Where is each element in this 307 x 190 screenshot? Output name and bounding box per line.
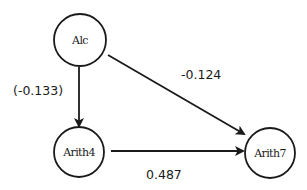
edge-alc-to-arith7 <box>108 55 244 134</box>
node-label-arith4: Arith4 <box>62 146 95 159</box>
node-arith4: Arith4 <box>54 127 104 177</box>
path-diagram: (-0.133) -0.124 0.487 Alc Arith4 Arith7 <box>0 0 307 190</box>
edge-label-alc-arith7: -0.124 <box>181 67 221 82</box>
edge-label-alc-arith4: (-0.133) <box>13 83 63 98</box>
node-arith7: Arith7 <box>245 128 295 178</box>
edge-labels: (-0.133) -0.124 0.487 <box>13 67 221 182</box>
edge-label-arith4-arith7: 0.487 <box>146 167 182 182</box>
node-label-alc: Alc <box>71 34 88 47</box>
node-label-arith7: Arith7 <box>253 147 286 160</box>
node-alc: Alc <box>54 14 106 66</box>
